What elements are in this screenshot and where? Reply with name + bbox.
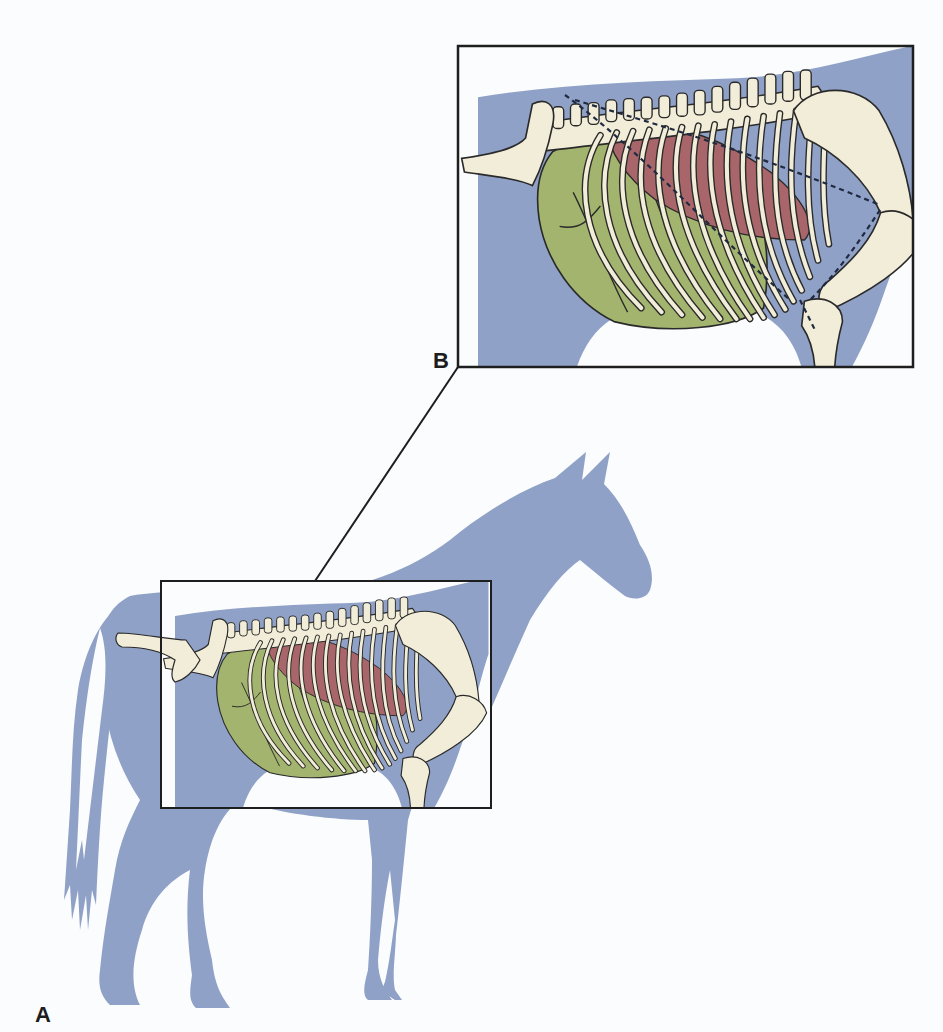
panel-label-b: B — [433, 348, 449, 374]
anatomy-figure — [0, 0, 943, 1032]
frame-b-contents — [458, 43, 927, 379]
panel-label-a: A — [35, 1002, 51, 1028]
frame-a-contents — [161, 578, 491, 813]
connector-line — [315, 367, 458, 581]
